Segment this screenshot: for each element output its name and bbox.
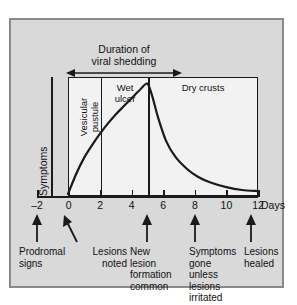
x-tick-label-2: 2: [88, 199, 112, 211]
x-tick-label-6: 6: [151, 199, 175, 211]
callout-arrow-symptoms-gone: [190, 214, 200, 242]
chart-panel: Duration of viral shedding Symptoms Vesi…: [9, 18, 284, 288]
callout-arrow-new-lesion-formation: [142, 214, 152, 242]
x-tick-4: [132, 190, 134, 197]
callout-arrow-lesions-healed: [246, 214, 256, 242]
x-tick-10: [226, 190, 228, 197]
symptom-curve: [68, 77, 258, 196]
callout-text-lesions-healed: Lesions healed: [244, 246, 290, 269]
x-tick-6: [163, 190, 165, 197]
x-axis-unit-label: Days: [261, 199, 285, 211]
x-tick-label-8: 8: [183, 199, 207, 211]
y-axis-line: [51, 77, 53, 196]
figure-root: Duration of viral shedding Symptoms Vesi…: [0, 0, 297, 305]
callout-text-prodromal-signs: Prodromal signs: [19, 246, 77, 269]
x-tick-12: [258, 190, 260, 197]
x-axis-line: [37, 196, 258, 198]
x-tick-0: [69, 190, 71, 197]
x-tick-2: [100, 190, 102, 197]
x-axis-left-cap: [37, 190, 39, 197]
y-axis-label: Symptoms: [37, 146, 49, 196]
x-tick-label--2: –2: [25, 199, 49, 211]
x-tick-label-10: 10: [214, 199, 238, 211]
callout-text-new-lesion-formation: New lesion formation common: [130, 246, 188, 292]
duration-bracket-title: Duration of viral shedding: [61, 44, 187, 67]
x-tick-label-4: 4: [120, 199, 144, 211]
x-tick-8: [195, 190, 197, 197]
callout-arrow-prodromal-signs: [32, 214, 42, 242]
callout-arrow-lesions-noted: [63, 215, 77, 242]
callout-text-lesions-noted: Lesions noted: [79, 246, 127, 269]
x-tick-label-0: 0: [57, 199, 81, 211]
callout-text-symptoms-gone: Symptoms gone unless lesions irritated: [189, 246, 244, 304]
